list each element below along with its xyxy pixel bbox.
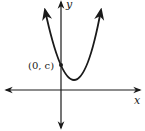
y-intercept-point (59, 63, 63, 67)
graph-canvas (0, 0, 145, 131)
x-axis-label: x (134, 95, 140, 106)
y-intercept-label: (0, c) (28, 61, 54, 71)
y-axis-label: y (66, 0, 72, 10)
parabola-graph: y x (0, c) (0, 0, 145, 131)
